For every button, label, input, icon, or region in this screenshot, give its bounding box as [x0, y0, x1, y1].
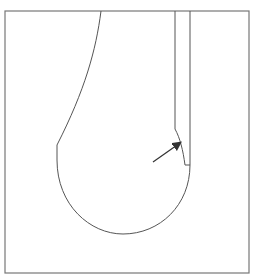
arrow-icon	[153, 143, 180, 162]
bulb-outline	[57, 11, 190, 234]
diagram-canvas	[0, 0, 257, 279]
channel-inner-wall	[175, 11, 190, 165]
